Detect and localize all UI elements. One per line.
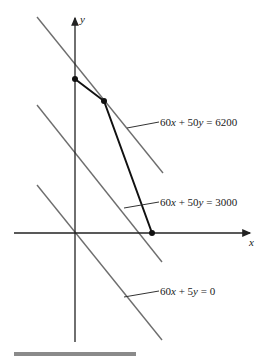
level-line-6200 [37, 17, 163, 173]
label-3000: 60x + 50y = 3000 [160, 196, 238, 208]
footer-bar [14, 352, 136, 356]
label-6200: 60x + 50y = 6200 [160, 116, 238, 128]
leader-6200 [127, 122, 159, 128]
level-line-3000 [37, 105, 162, 262]
label-0: 60x + 5y = 0 [160, 285, 216, 297]
vertex-y-intercept [72, 76, 78, 82]
lp-diagram: y x 60x + 50y = 6200 60x + 50y = 3000 60… [0, 0, 268, 361]
x-axis-label: x [248, 236, 254, 248]
y-axis-label: y [79, 13, 85, 25]
leader-0 [124, 291, 159, 297]
vertex-x-intercept [149, 230, 155, 236]
feasible-boundary [75, 79, 152, 233]
vertex-optimal [101, 98, 107, 104]
